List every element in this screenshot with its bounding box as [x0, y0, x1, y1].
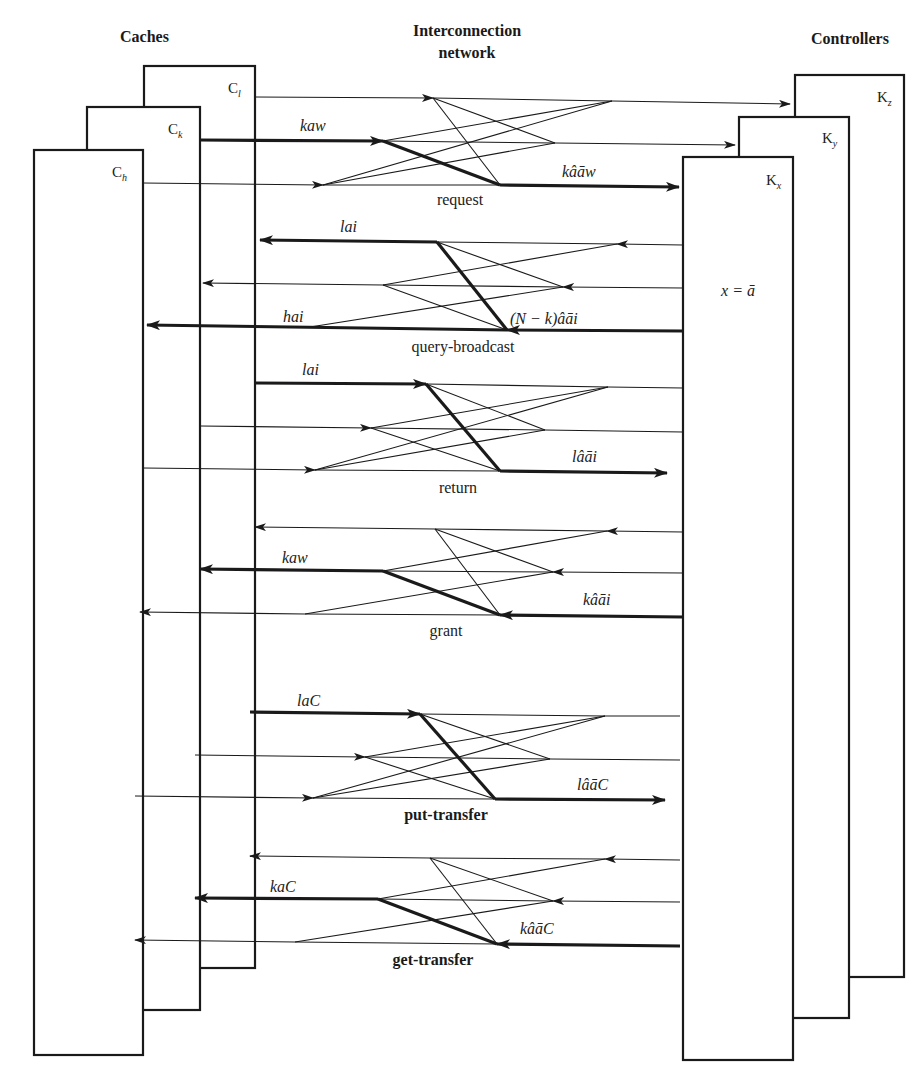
- cache-coherence-protocol-diagram: Caches Interconnection network Controlle…: [0, 0, 914, 1071]
- controllers-header: Controllers: [811, 30, 889, 47]
- controller-state-formula: x = ā: [720, 282, 755, 299]
- phase-label: request: [437, 191, 484, 209]
- message-label: hai: [283, 308, 303, 325]
- message-label: kâāC: [520, 920, 554, 937]
- message-label: kaC: [270, 878, 296, 895]
- message-label: kaw: [282, 549, 308, 566]
- controller-x: Kx x = ā: [683, 157, 793, 1060]
- message-label: lâāi: [572, 448, 597, 465]
- phase-label: query-broadcast: [411, 338, 515, 356]
- phase-label: get-transfer: [393, 951, 474, 969]
- message-label: lai: [302, 361, 319, 378]
- message-label: kaw: [300, 117, 326, 134]
- caches-header: Caches: [120, 28, 169, 45]
- message-label: lai: [340, 218, 357, 235]
- message-label: kâāi: [583, 591, 611, 608]
- cache-box: [34, 150, 143, 1055]
- phase-label: grant: [430, 622, 463, 640]
- cache-h: Ch: [34, 150, 143, 1055]
- phase-label: put-transfer: [404, 806, 488, 824]
- network-header-line1: Interconnection: [413, 22, 521, 39]
- network-header-line2: network: [439, 44, 496, 61]
- message-label: laC: [297, 692, 320, 709]
- message-label: lâāC: [577, 776, 608, 793]
- phase-label: return: [439, 479, 477, 496]
- message-label: (N − k)âāi: [510, 310, 578, 328]
- message-label: kâāw: [562, 163, 596, 180]
